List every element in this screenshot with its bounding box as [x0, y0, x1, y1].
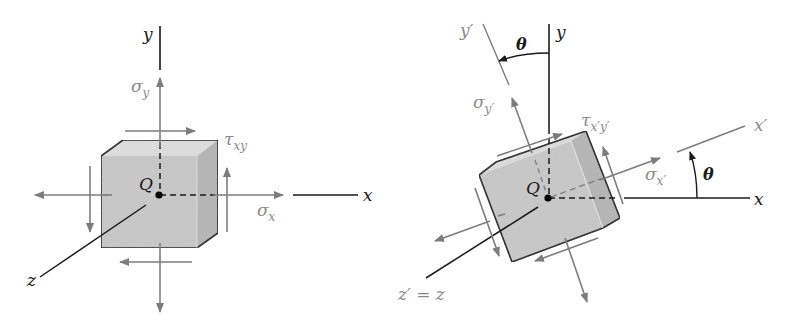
cube-side-face: [197, 140, 218, 248]
q-label-right: Q: [526, 178, 540, 198]
sigma-x-label: σx: [257, 200, 276, 224]
z-prime-eq-z-label: z′ = z: [397, 284, 446, 304]
theta-label-right: θ: [703, 165, 714, 184]
x-prime-axis-label: x′: [754, 115, 768, 135]
x-axis-label-right: x: [754, 189, 764, 209]
z-axis-label-left: z: [26, 270, 37, 290]
point-q-right: [544, 194, 551, 201]
sigma-yp-arrow-down: [565, 238, 587, 302]
sigma-yp-label: σy′: [473, 92, 494, 116]
cube-front-face: [101, 156, 197, 248]
stress-transformation-diagram: y x z Q σy σx τxy: [0, 0, 788, 326]
theta-arc-right: [690, 152, 697, 198]
theta-arc-top: [499, 53, 549, 61]
sigma-y-label: σy: [131, 76, 150, 100]
y-axis-label-right: y: [555, 22, 566, 42]
y-prime-axis: [483, 24, 509, 85]
point-q-left: [155, 191, 162, 198]
left-panel: y x z Q σy σx τxy: [26, 24, 373, 312]
sigma-xp-arrow-left: [435, 221, 490, 241]
x-axis-label-left: x: [363, 185, 373, 205]
sigma-xp-label: σx′: [645, 164, 666, 188]
theta-label-top: θ: [516, 35, 527, 54]
right-panel: y x y′ x′ z′ = z Q θ θ σy′ σx′ τx′y′: [397, 20, 768, 304]
y-axis-label-left: y: [142, 24, 153, 44]
tau-xy-label: τxy: [224, 129, 247, 153]
x-prime-axis: [677, 126, 745, 152]
q-label-left: Q: [139, 174, 153, 194]
y-prime-axis-label: y′: [459, 20, 474, 40]
